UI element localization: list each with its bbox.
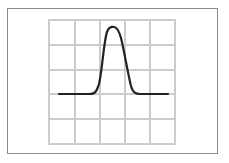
- grid: [49, 20, 175, 144]
- oscilloscope-chart: [0, 0, 229, 163]
- grid-border: [49, 20, 175, 144]
